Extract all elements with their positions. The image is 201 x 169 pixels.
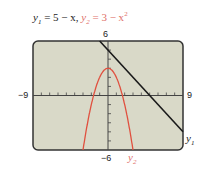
ymin-label: −6 [101, 153, 111, 163]
graph-screen [0, 0, 201, 169]
y1-curve-label: y1 [186, 132, 194, 147]
y2-curve-label: y2 [128, 151, 136, 166]
ymax-label: 6 [103, 29, 108, 39]
xmax-label: 9 [187, 90, 192, 100]
xmin-label: −9 [18, 90, 28, 100]
